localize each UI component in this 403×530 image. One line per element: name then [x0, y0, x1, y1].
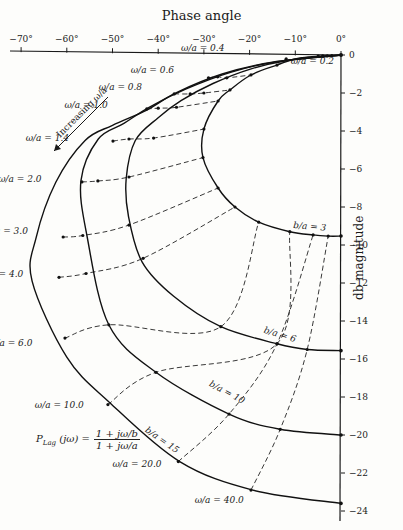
y-tick-label: −22 — [349, 468, 368, 478]
y-tick-label: −16 — [349, 354, 368, 364]
formula-fraction: 1 + jω/b 1 + jω/a — [94, 428, 140, 451]
data-point — [175, 106, 178, 109]
x-tick-label: 0° — [336, 34, 346, 44]
y-tick-label: −8 — [349, 202, 363, 212]
axis-end-point — [339, 349, 343, 353]
y-tick-label: −18 — [349, 392, 368, 402]
data-point — [157, 107, 160, 110]
transfer-function-formula: PLag (jω) = 1 + jω/b 1 + jω/a — [36, 428, 140, 451]
omega-label: ω/a = 20.0 — [113, 459, 162, 469]
data-point — [202, 91, 205, 94]
data-point — [152, 136, 155, 139]
data-point — [142, 257, 145, 260]
ba-curve — [202, 55, 341, 236]
omega-label: ω/a = 0.4 — [181, 43, 225, 53]
data-point — [84, 272, 87, 275]
origin-point — [339, 53, 343, 57]
x-tick-label: −70° — [9, 34, 33, 44]
omega-line — [251, 236, 328, 490]
omega-label: ω/a = 4.0 — [0, 269, 24, 279]
data-point — [111, 139, 114, 142]
y-tick-label: −4 — [349, 126, 363, 136]
omega-label: ω/a = 2.0 — [0, 174, 42, 184]
data-point — [127, 137, 130, 140]
axis-end-point — [339, 433, 343, 437]
omega-label: ω/a = 6.0 — [0, 338, 33, 348]
x-tick-label: −40° — [146, 34, 170, 44]
omega-label: ω/a = 0.6 — [131, 65, 175, 75]
omega-label: ω/a = 3.0 — [0, 226, 28, 236]
omega-label: ω/a = 40.0 — [195, 495, 244, 505]
ba-label: b/a = 3 — [293, 220, 327, 233]
omega-label: ω/a = 10.0 — [35, 400, 84, 410]
omega-line — [65, 222, 259, 338]
x-tick-label: −20° — [238, 34, 262, 44]
y-tick-label: −2 — [349, 88, 362, 98]
formula-denominator: 1 + jω/a — [94, 440, 140, 451]
data-point — [57, 276, 60, 279]
omega-line — [108, 232, 291, 405]
x-tick-label: −10° — [284, 34, 308, 44]
omega-line — [82, 158, 203, 182]
omega-line — [113, 129, 204, 141]
y-tick-label: 0 — [349, 50, 355, 60]
omega-line — [59, 207, 235, 277]
data-point — [106, 403, 109, 406]
formula-lhs: PLag (jω) = — [36, 433, 90, 447]
data-point — [81, 234, 84, 237]
data-point — [62, 235, 65, 238]
x-tick-label: −50° — [101, 34, 125, 44]
axis-end-point — [339, 502, 343, 506]
y-axis-label: db magnitude — [352, 216, 366, 300]
data-point — [63, 337, 66, 340]
y-tick-label: −24 — [349, 506, 368, 516]
axis-end-point — [339, 234, 343, 238]
formula-numerator: 1 + jω/b — [94, 428, 140, 440]
ba-label: b/a = 10 — [208, 379, 247, 406]
omega-line — [178, 235, 313, 462]
x-axis-line — [10, 51, 341, 55]
data-point — [96, 179, 99, 182]
increasing-label: Increasing ω/a — [54, 84, 109, 139]
data-point — [127, 175, 130, 178]
y-tick-label: −6 — [349, 164, 363, 174]
ba-label: b/a = 15 — [143, 425, 181, 456]
y-axis-line — [340, 55, 341, 521]
y-tick-label: −14 — [349, 316, 368, 326]
y-tick-label: −20 — [349, 430, 368, 440]
x-tick-label: −60° — [55, 34, 79, 44]
ba-curve — [126, 55, 341, 351]
